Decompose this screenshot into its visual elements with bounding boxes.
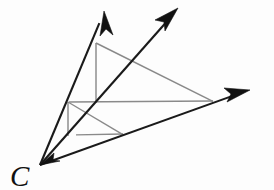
geometry-diagram-canvas: C	[0, 0, 274, 190]
figure-svg: C	[0, 0, 274, 190]
ray-left-arrowhead-icon	[100, 11, 113, 36]
arrow-heads-group	[100, 8, 250, 102]
small-triangle-horizontal-line	[76, 134, 123, 135]
rays-group	[40, 19, 240, 165]
inner-triangle-segments	[68, 43, 213, 136]
ray-right-arrowhead-icon	[224, 88, 250, 102]
large-triangle-horizontal-line	[69, 101, 213, 102]
large-triangle-hypotenuse-line	[96, 43, 213, 101]
ray-left-line	[40, 23, 99, 165]
ray-middle-arrowhead-icon	[155, 8, 178, 31]
vertex-label-c: C	[10, 160, 30, 190]
small-triangle-hypotenuse-line	[68, 102, 123, 135]
ray-middle-line	[40, 19, 169, 165]
ray-right-line	[40, 93, 240, 165]
